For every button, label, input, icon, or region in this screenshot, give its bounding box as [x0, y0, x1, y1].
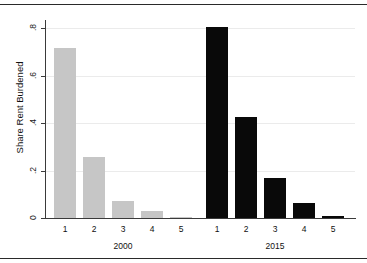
- y-tick-mark-0: [41, 218, 46, 219]
- bar-2015-5: [322, 216, 344, 218]
- gridline-0.6: [45, 76, 355, 77]
- x-tick-label-2000-3: 3: [114, 224, 132, 234]
- bar-2015-4: [293, 203, 315, 218]
- y-tick-mark-0.4: [41, 123, 46, 124]
- figure-bottom-border: [0, 258, 367, 259]
- bar-2000-4: [141, 211, 163, 218]
- x-tick-label-2000-1: 1: [56, 224, 74, 234]
- bar-2000-2: [83, 157, 105, 218]
- bar-2000-5: [170, 217, 192, 218]
- y-axis-label: Share Rent Burdened: [14, 38, 25, 178]
- y-tick-label-0.8: .8: [29, 21, 38, 35]
- bar-2015-1: [206, 27, 228, 218]
- y-tick-mark-0.2: [41, 171, 46, 172]
- x-tick-label-2015-1: 1: [208, 224, 226, 234]
- group-label-2000: 2000: [93, 241, 153, 251]
- figure-top-border: [0, 4, 367, 5]
- y-axis: [45, 20, 46, 219]
- y-tick-label-0.6: .6: [29, 68, 38, 82]
- bar-2015-3: [264, 178, 286, 218]
- x-tick-label-2000-5: 5: [172, 224, 190, 234]
- gridline-0.8: [45, 28, 355, 29]
- bar-2000-3: [112, 201, 134, 218]
- x-tick-label-2000-4: 4: [143, 224, 161, 234]
- y-tick-label-0: 0: [29, 211, 38, 225]
- x-tick-label-2015-4: 4: [295, 224, 313, 234]
- bar-2015-2: [235, 117, 257, 218]
- y-tick-mark-0.6: [41, 76, 46, 77]
- y-tick-label-0.2: .2: [29, 163, 38, 177]
- chart-figure: 0 .2 .4 .6 .8 Share Rent Burdened 1 2 3 …: [0, 0, 367, 263]
- x-tick-label-2015-3: 3: [266, 224, 284, 234]
- x-tick-label-2000-2: 2: [85, 224, 103, 234]
- bar-2000-1: [54, 48, 76, 218]
- x-axis: [45, 218, 356, 219]
- gridline-0.4: [45, 123, 355, 124]
- group-label-2015: 2015: [245, 241, 305, 251]
- x-tick-label-2015-5: 5: [324, 224, 342, 234]
- y-tick-mark-0.8: [41, 28, 46, 29]
- y-tick-label-0.4: .4: [29, 116, 38, 130]
- x-tick-label-2015-2: 2: [237, 224, 255, 234]
